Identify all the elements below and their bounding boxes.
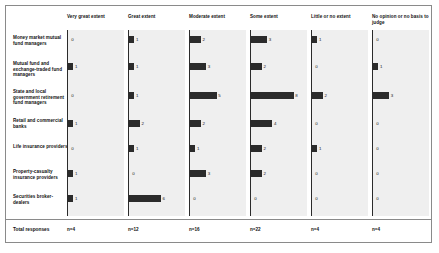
totals-row-label: Total responses (13, 227, 49, 232)
bar-value-label: 3 (208, 170, 210, 177)
bar (68, 195, 73, 202)
bar-row: 0 (251, 195, 256, 202)
bar-value-label: 0 (315, 170, 317, 177)
bar-value-label: 1 (136, 63, 138, 70)
bar-value-label: 2 (263, 145, 265, 152)
bar-value-label: 1 (75, 170, 77, 177)
bar (190, 170, 206, 177)
bar (129, 63, 134, 70)
row-label: Life insurance providers (13, 144, 68, 150)
bar-value-label: 2 (263, 170, 265, 177)
bar-row: 0 (373, 195, 378, 202)
bar-value-label: 1 (75, 63, 77, 70)
bar-value-label: 1 (380, 63, 382, 70)
column-total: n=4 (67, 227, 124, 232)
bar-row: 3 (190, 170, 210, 177)
bar-row: 1 (129, 63, 138, 70)
bar-value-label: 1 (136, 145, 138, 152)
column-header: Little or no extent (311, 14, 368, 20)
bar (251, 120, 272, 127)
bar-value-label: 0 (315, 120, 317, 127)
bar-value-label: 0 (376, 195, 378, 202)
bar (190, 36, 201, 43)
bar-value-label: 2 (202, 120, 204, 127)
bar-row: 5 (190, 92, 221, 99)
bar-row: 1 (190, 145, 199, 152)
bar-row: 0 (312, 195, 317, 202)
bar-row: 3 (373, 92, 393, 99)
bar (251, 145, 262, 152)
bar (190, 145, 195, 152)
row-label: Mutual fund and exchange-traded fund man… (13, 61, 68, 78)
bar-row: 1 (373, 63, 382, 70)
bar (129, 92, 134, 99)
bar-value-label: 2 (202, 36, 204, 43)
totals-divider (6, 219, 431, 220)
column-header: Great extent (128, 14, 185, 20)
bar-row: 0 (312, 170, 317, 177)
bar-row: 1 (68, 63, 77, 70)
bar-value-label: 1 (319, 36, 321, 43)
row-label: Property-casualty insurance providers (13, 169, 68, 180)
bar-value-label: 2 (324, 92, 326, 99)
row-label: State and local government retirement fu… (13, 89, 68, 106)
chart-grid: Money market mutual fund managersMutual … (6, 6, 431, 242)
bar-row: 0 (68, 145, 73, 152)
column-total: n=12 (128, 227, 185, 232)
column-panel (311, 30, 368, 216)
column-panel (372, 30, 429, 216)
bar-value-label: 6 (163, 195, 165, 202)
chart-figure: Money market mutual fund managersMutual … (5, 5, 432, 243)
bar-row: 1 (312, 36, 321, 43)
bar (190, 92, 217, 99)
bar-value-label: 4 (274, 120, 276, 127)
bar-row: 2 (190, 120, 205, 127)
bar-row: 8 (251, 92, 297, 99)
bar-row: 2 (312, 92, 327, 99)
bar-value-label: 1 (75, 120, 77, 127)
bar (373, 92, 389, 99)
bar-value-label: 3 (269, 36, 271, 43)
bar (312, 145, 317, 152)
bar-value-label: 0 (71, 36, 73, 43)
bar (312, 92, 323, 99)
bar (190, 120, 201, 127)
bar-value-label: 0 (193, 195, 195, 202)
bar-row: 2 (129, 120, 144, 127)
bar-value-label: 0 (315, 195, 317, 202)
bar-row: 3 (251, 36, 271, 43)
column-total: n=4 (311, 227, 368, 232)
bar-value-label: 0 (132, 170, 134, 177)
bar-value-label: 8 (295, 92, 297, 99)
row-label: Securities broker-dealers (13, 194, 68, 205)
bar-value-label: 0 (254, 195, 256, 202)
bar (68, 170, 73, 177)
column-header: No opinion or no basis to judge (372, 14, 429, 26)
bar (251, 170, 262, 177)
bar-row: 1 (129, 145, 138, 152)
bar-value-label: 1 (136, 92, 138, 99)
bar-row: 2 (251, 145, 266, 152)
bar-value-label: 0 (315, 63, 317, 70)
bar-row: 4 (251, 120, 276, 127)
column-header: Some extent (250, 14, 307, 20)
bar-value-label: 0 (376, 170, 378, 177)
bar (68, 63, 73, 70)
row-label: Money market mutual fund managers (13, 35, 68, 46)
column-total: n=16 (189, 227, 246, 232)
bar-row: 2 (251, 170, 266, 177)
bar-row: 2 (251, 63, 266, 70)
bar (312, 36, 317, 43)
bar-row: 1 (68, 120, 77, 127)
bar-row: 2 (190, 36, 205, 43)
bar-row: 1 (129, 36, 138, 43)
bar (251, 92, 293, 99)
bar-value-label: 0 (71, 92, 73, 99)
bar (129, 36, 134, 43)
bar-row: 0 (373, 170, 378, 177)
bar-value-label: 2 (141, 120, 143, 127)
bar-value-label: 2 (263, 63, 265, 70)
bar (129, 145, 134, 152)
bar-row: 0 (68, 92, 73, 99)
bar-row: 6 (129, 195, 165, 202)
